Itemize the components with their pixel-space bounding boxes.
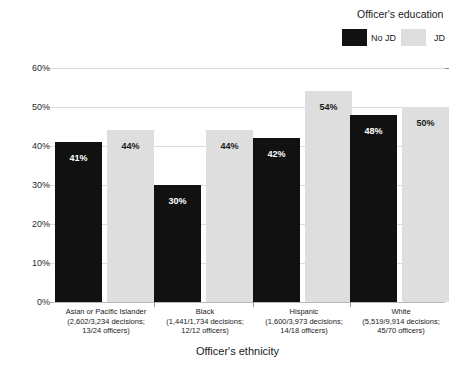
bar-white-no-jd[interactable]: 48% — [350, 115, 397, 302]
bar-hispanic-jd[interactable]: 54% — [305, 91, 352, 302]
bar-value-hispanic-no-jd: 42% — [253, 149, 300, 159]
y-tick-right-60 — [445, 68, 449, 69]
legend-label-jd: JD — [434, 33, 445, 43]
bar-black-no-jd[interactable]: 30% — [154, 185, 201, 302]
x-axis-line — [50, 302, 445, 303]
bar-value-asian-no-jd: 41% — [55, 153, 102, 163]
bar-value-white-no-jd: 48% — [350, 126, 397, 136]
y-tick-label-60: 60% — [10, 63, 50, 73]
bar-value-black-no-jd: 30% — [154, 196, 201, 206]
y-axis: 60% 50% 40% 30% 20% 10% 0% — [0, 68, 50, 302]
y-tick-label-10: 10% — [10, 258, 50, 268]
x-axis-title: Officer's ethnicity — [0, 345, 475, 357]
bar-chart: Officer's education No JD JD 60% 50% 40%… — [0, 0, 475, 369]
bar-black-jd[interactable]: 44% — [206, 130, 253, 302]
x-category-sub1-white: (5,519/9,914 decisions; — [327, 317, 475, 327]
bar-value-white-jd: 50% — [402, 118, 449, 128]
y-tick-60 — [46, 68, 50, 69]
y-tick-label-20: 20% — [10, 219, 50, 229]
x-category-label-white: White (5,519/9,914 decisions; 45/70 offi… — [327, 307, 475, 336]
legend-swatch-no-jd — [342, 29, 367, 46]
y-tick-10 — [46, 263, 50, 264]
bar-value-asian-jd: 44% — [107, 141, 154, 151]
bar-hispanic-no-jd[interactable]: 42% — [253, 138, 300, 302]
gridline-60 — [50, 68, 445, 69]
y-tick-label-40: 40% — [10, 141, 50, 151]
legend-label-no-jd: No JD — [371, 33, 396, 43]
x-category-sub2-white: 45/70 officers) — [327, 326, 475, 336]
bar-value-hispanic-jd: 54% — [305, 102, 352, 112]
bar-asian-jd[interactable]: 44% — [107, 130, 154, 302]
y-tick-label-30: 30% — [10, 180, 50, 190]
y-tick-20 — [46, 224, 50, 225]
bar-value-black-jd: 44% — [206, 141, 253, 151]
legend-swatch-jd — [401, 29, 426, 46]
y-tick-label-50: 50% — [10, 102, 50, 112]
gridline-50 — [50, 107, 445, 108]
legend-title: Officer's education — [357, 8, 443, 20]
bar-asian-no-jd[interactable]: 41% — [55, 142, 102, 302]
plot-area: 41% 44% 30% 44% 42% 54% 48% 50% — [50, 68, 445, 302]
bar-white-jd[interactable]: 50% — [402, 107, 449, 302]
y-tick-40 — [46, 146, 50, 147]
y-tick-50 — [46, 107, 50, 108]
y-tick-30 — [46, 185, 50, 186]
y-tick-label-0: 0% — [10, 297, 50, 307]
x-category-name-white: White — [327, 307, 475, 317]
